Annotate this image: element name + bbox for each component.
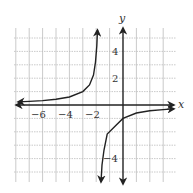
- x-axis-label: x: [178, 98, 185, 111]
- y-tick-label: −4: [103, 153, 118, 164]
- x-tick-label: −2: [85, 109, 100, 120]
- y-tick-label: 2: [112, 73, 118, 84]
- y-axis-label: y: [118, 12, 126, 25]
- rational-function-graph: x y −6 −4 −2 4 2 −4: [0, 0, 193, 193]
- y-tick-label: 4: [112, 46, 118, 57]
- left-branch-curve: [18, 30, 98, 102]
- x-tick-label: −6: [31, 109, 46, 120]
- x-tick-label: −4: [58, 109, 73, 120]
